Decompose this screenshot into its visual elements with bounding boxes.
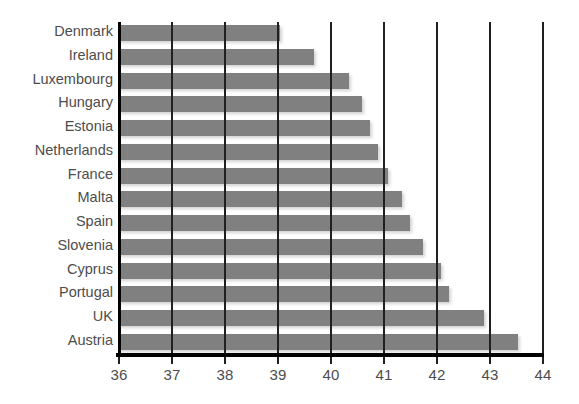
category-label: Malta bbox=[1, 189, 113, 205]
tick-mark-36 bbox=[118, 357, 120, 364]
bar bbox=[118, 191, 402, 207]
tick-mark-44 bbox=[542, 357, 544, 364]
bar-row bbox=[118, 25, 280, 41]
gridline-42 bbox=[436, 22, 438, 355]
tick-label-40: 40 bbox=[311, 366, 351, 383]
gridline-38 bbox=[224, 22, 226, 355]
gridline-39 bbox=[277, 22, 279, 355]
tick-mark-38 bbox=[224, 357, 226, 364]
category-axis-labels: DenmarkIrelandLuxembourgHungaryEstoniaNe… bbox=[0, 22, 113, 355]
category-label: Denmark bbox=[1, 23, 113, 39]
gridline-36 bbox=[118, 22, 121, 355]
bar-row bbox=[118, 73, 349, 89]
bar-row bbox=[118, 144, 378, 160]
bar bbox=[118, 168, 388, 184]
gridline-37 bbox=[171, 22, 173, 355]
category-label: France bbox=[1, 166, 113, 182]
tick-label-43: 43 bbox=[470, 366, 510, 383]
bar-row bbox=[118, 334, 518, 350]
gridline-40 bbox=[330, 22, 332, 355]
tick-mark-40 bbox=[330, 357, 332, 364]
gridline-43 bbox=[489, 22, 491, 355]
category-label: UK bbox=[1, 308, 113, 324]
plot-area bbox=[118, 22, 542, 355]
tick-mark-37 bbox=[171, 357, 173, 364]
tick-label-38: 38 bbox=[205, 366, 245, 383]
category-label: Austria bbox=[1, 332, 113, 348]
tick-label-36: 36 bbox=[99, 366, 139, 383]
bar-chart: DenmarkIrelandLuxembourgHungaryEstoniaNe… bbox=[0, 0, 579, 404]
bar-row bbox=[118, 49, 314, 65]
tick-label-37: 37 bbox=[152, 366, 192, 383]
bar bbox=[118, 73, 349, 89]
bar-row bbox=[118, 286, 449, 302]
bar bbox=[118, 25, 280, 41]
tick-label-39: 39 bbox=[258, 366, 298, 383]
bar-row bbox=[118, 263, 441, 279]
category-label: Slovenia bbox=[1, 237, 113, 253]
tick-label-41: 41 bbox=[364, 366, 404, 383]
bar bbox=[118, 334, 518, 350]
tick-label-42: 42 bbox=[417, 366, 457, 383]
category-label: Portugal bbox=[1, 284, 113, 300]
category-label: Cyprus bbox=[1, 261, 113, 277]
category-label: Ireland bbox=[1, 47, 113, 63]
bar bbox=[118, 215, 410, 231]
bar-row bbox=[118, 168, 388, 184]
tick-label-44: 44 bbox=[523, 366, 563, 383]
bar-row bbox=[118, 239, 423, 255]
category-label: Netherlands bbox=[1, 142, 113, 158]
category-label: Luxembourg bbox=[1, 71, 113, 87]
category-label: Hungary bbox=[1, 94, 113, 110]
category-label: Estonia bbox=[1, 118, 113, 134]
bar bbox=[118, 144, 378, 160]
bar bbox=[118, 263, 441, 279]
category-label: Spain bbox=[1, 213, 113, 229]
gridline-41 bbox=[383, 22, 385, 355]
gridline-44 bbox=[542, 22, 544, 355]
tick-mark-43 bbox=[489, 357, 491, 364]
bar bbox=[118, 239, 423, 255]
tick-mark-39 bbox=[277, 357, 279, 364]
tick-mark-41 bbox=[383, 357, 385, 364]
bar-row bbox=[118, 191, 402, 207]
bar bbox=[118, 49, 314, 65]
bar-row bbox=[118, 96, 362, 112]
bar bbox=[118, 286, 449, 302]
tick-mark-42 bbox=[436, 357, 438, 364]
bar-row bbox=[118, 215, 410, 231]
bar bbox=[118, 96, 362, 112]
